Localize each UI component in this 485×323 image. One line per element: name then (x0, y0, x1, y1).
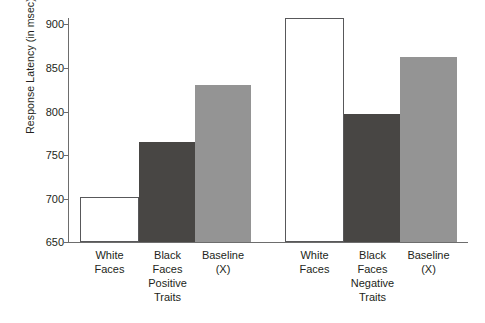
x-label-positive-baseline: Baseline (X) (195, 249, 251, 276)
y-tick-800: 800 (24, 106, 64, 118)
y-tick-mark-650 (64, 242, 68, 243)
x-label-line-1: Baseline (400, 249, 457, 263)
x-label-line-1: Black (139, 249, 196, 263)
bar-positive-black-faces (139, 142, 196, 242)
x-label-negative-black-faces: Black Faces (344, 249, 401, 276)
y-tick-700: 700 (24, 193, 64, 205)
y-tick-900: 900 (24, 18, 64, 30)
bar-positive-white-faces (80, 197, 139, 242)
x-axis-line (68, 242, 468, 243)
y-tick-750: 750 (24, 149, 64, 161)
x-label-negative-white-faces: White Faces (285, 249, 344, 276)
x-label-line-1: Baseline (195, 249, 251, 263)
x-label-line-2: Faces (139, 263, 196, 277)
y-tick-650: 650 (24, 236, 64, 248)
bar-negative-baseline (400, 57, 457, 242)
x-label-line-2: (X) (195, 263, 251, 277)
group-label-line-1: Negative (344, 277, 401, 291)
group-label-line-2: Traits (139, 291, 196, 305)
x-label-negative-baseline: Baseline (X) (400, 249, 457, 276)
bar-chart-figure: Response Latency (in msec) 900 850 800 7… (0, 0, 485, 323)
y-tick-labels: 900 850 800 750 700 650 (18, 0, 64, 323)
x-label-line-2: Faces (80, 263, 139, 277)
x-label-positive-white-faces: White Faces (80, 249, 139, 276)
group-label-negative-traits: Negative Traits (344, 277, 401, 304)
x-label-line-1: White (80, 249, 139, 263)
plot-area (68, 18, 468, 242)
x-label-line-1: Black (344, 249, 401, 263)
x-label-line-2: (X) (400, 263, 457, 277)
bar-negative-black-faces (344, 114, 401, 242)
x-label-line-2: Faces (344, 263, 401, 277)
bar-positive-baseline (195, 85, 251, 242)
x-label-line-1: White (285, 249, 344, 263)
x-label-positive-black-faces: Black Faces (139, 249, 196, 276)
group-label-line-1: Positive (139, 277, 196, 291)
x-label-line-2: Faces (285, 263, 344, 277)
y-tick-850: 850 (24, 62, 64, 74)
group-label-positive-traits: Positive Traits (139, 277, 196, 304)
bar-negative-white-faces (285, 18, 344, 242)
group-label-line-2: Traits (344, 291, 401, 305)
